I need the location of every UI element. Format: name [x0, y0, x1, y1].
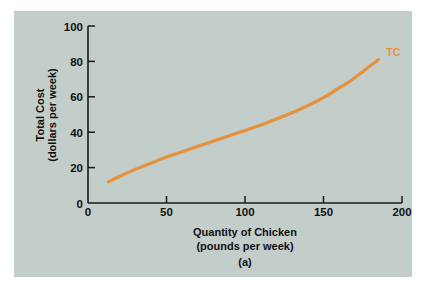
- y-axis-ticks: [88, 26, 95, 168]
- tc-series-label: TC: [386, 46, 400, 58]
- y-tick-label-80: 80: [70, 56, 83, 68]
- y-tick-label-60: 60: [70, 91, 83, 103]
- x-axis-title: Quantity of Chicken: [193, 226, 297, 238]
- y-axis-title: Total Cost: [34, 88, 46, 141]
- x-axis-ticks: [167, 196, 403, 203]
- total-cost-chart: 100 80 60 40 20 0 0 50 100 150 200 Total…: [0, 0, 426, 291]
- y-tick-label-0: 0: [77, 198, 83, 210]
- figure-screenshot: 100 80 60 40 20 0 0 50 100 150 200 Total…: [0, 0, 426, 291]
- x-axis-units: (pounds per week): [196, 240, 294, 252]
- y-tick-label-40: 40: [70, 127, 83, 139]
- x-tick-label-150: 150: [314, 206, 333, 218]
- x-tick-label-0: 0: [85, 206, 91, 218]
- total-cost-curve: [108, 60, 378, 182]
- x-tick-label-100: 100: [235, 206, 254, 218]
- y-tick-label-20: 20: [70, 162, 83, 174]
- y-tick-label-100: 100: [64, 21, 83, 33]
- x-tick-label-200: 200: [392, 206, 411, 218]
- y-axis-units: (dollars per week): [46, 68, 58, 162]
- figure-caption: (a): [238, 256, 252, 268]
- x-tick-label-50: 50: [160, 206, 173, 218]
